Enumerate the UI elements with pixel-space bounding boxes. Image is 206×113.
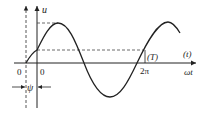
x-axis-alt-label: (t) xyxy=(183,49,192,59)
phase-label: ψ xyxy=(27,82,34,93)
y-axis-label: u xyxy=(42,4,47,15)
period-label: 2π xyxy=(140,66,150,76)
period-alt-label: (T) xyxy=(147,52,158,62)
origin-shifted-label: 0 xyxy=(17,67,22,77)
x-axis-label: ωt xyxy=(184,67,193,77)
sine-wave-diagram: u 0 0 (T) 2π (t) ωt ψ xyxy=(0,0,206,113)
origin-label: 0 xyxy=(40,67,45,77)
